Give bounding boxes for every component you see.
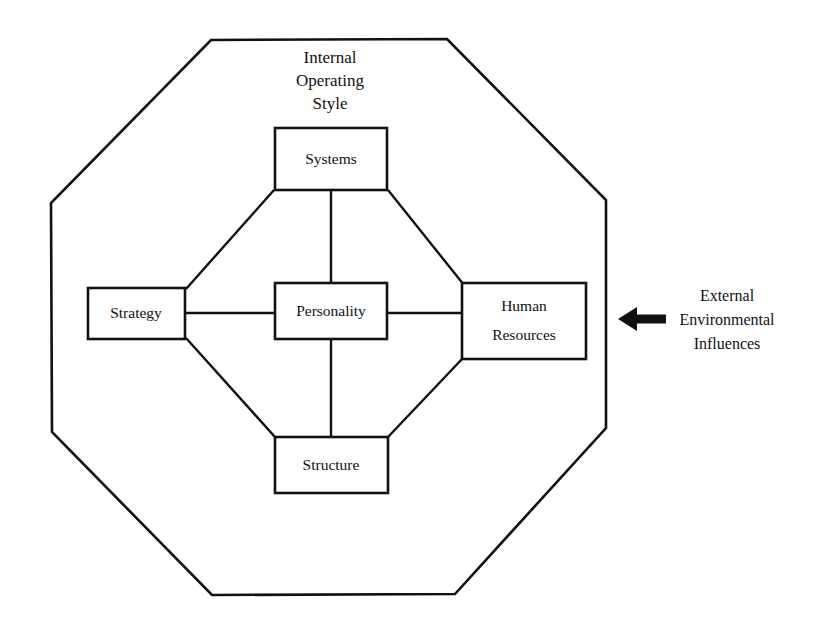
diagram-title-line-1: Internal <box>304 48 357 67</box>
node-human-resources-label-line-2: Resources <box>492 326 556 343</box>
node-structure-label: Structure <box>303 456 360 473</box>
node-human-resources-label-line-1: Human <box>501 297 547 314</box>
node-personality-label: Personality <box>296 302 366 319</box>
connector-strategy-structure <box>186 338 275 437</box>
diagram-title-line-2: Operating <box>296 71 364 90</box>
organization-model-diagram: Internal Operating Style Systems Strateg… <box>0 0 836 636</box>
external-influence-group: External Environmental Influences <box>618 287 775 352</box>
connector-structure-human-resources <box>388 358 463 437</box>
node-structure[interactable]: Structure <box>275 437 388 493</box>
arrow-left-icon <box>618 307 666 331</box>
node-human-resources[interactable]: Human Resources <box>462 283 586 359</box>
node-systems-label: Systems <box>305 150 357 167</box>
connector-systems-human-resources <box>388 190 464 285</box>
connector-strategy-systems <box>186 190 274 289</box>
node-strategy-label: Strategy <box>110 304 162 321</box>
external-label-line-3: Influences <box>694 335 761 352</box>
node-systems[interactable]: Systems <box>275 128 387 190</box>
node-personality[interactable]: Personality <box>275 283 387 339</box>
diagram-title-line-3: Style <box>313 94 348 113</box>
diagram-title: Internal Operating Style <box>296 48 364 113</box>
node-strategy[interactable]: Strategy <box>88 288 185 339</box>
external-label-line-2: Environmental <box>679 311 775 328</box>
external-label-line-1: External <box>700 287 755 304</box>
node-human-resources-box[interactable] <box>462 283 586 359</box>
